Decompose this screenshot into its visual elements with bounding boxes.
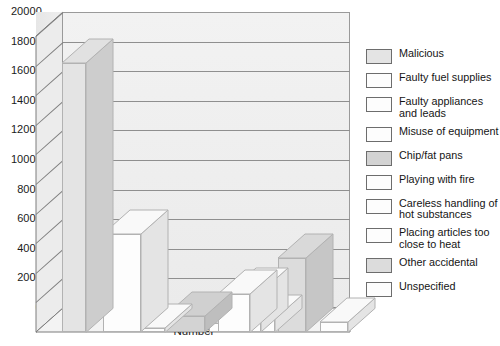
legend-swatch [366, 228, 392, 243]
legend-item[interactable]: Playing with fire [366, 174, 500, 192]
legend-item[interactable]: Chip/fat pans [366, 150, 500, 168]
legend-item[interactable]: Other accidental [366, 257, 500, 275]
legend-item[interactable]: Placing articles too close to heat [366, 227, 500, 251]
legend-swatch [366, 282, 392, 297]
legend-label: Unspecified [399, 281, 455, 293]
legend-item[interactable]: Malicious [366, 48, 500, 66]
legend-item[interactable]: Faulty appliances and leads [366, 96, 500, 120]
legend-label: Faulty appliances and leads [399, 96, 483, 120]
legend-label: Faulty fuel supplies [399, 72, 491, 84]
legend-label: Other accidental [399, 257, 478, 269]
bar-side-face [86, 39, 115, 334]
bar [62, 63, 86, 332]
bar-chart: 0200040006000800010000120001400016000180… [0, 0, 500, 346]
legend-swatch [366, 258, 392, 273]
legend-label: Playing with fire [399, 174, 475, 186]
legend-swatch [366, 127, 392, 142]
legend-label: Placing articles too close to heat [399, 227, 490, 251]
legend-item[interactable]: Misuse of equipment [366, 126, 500, 144]
legend-swatch [366, 97, 392, 112]
legend-label: Misuse of equipment [399, 126, 499, 138]
legend-swatch [366, 49, 392, 64]
chart-legend: MaliciousFaulty fuel suppliesFaulty appl… [366, 48, 500, 305]
legend-swatch [366, 199, 392, 214]
legend-label: Chip/fat pans [399, 150, 463, 162]
legend-swatch [366, 175, 392, 190]
legend-swatch [366, 151, 392, 166]
bar-top-face [278, 234, 335, 260]
legend-item[interactable]: Unspecified [366, 281, 500, 299]
legend-label: Careless handling of hot substances [399, 198, 497, 222]
legend-swatch [366, 73, 392, 88]
legend-label: Malicious [399, 48, 444, 60]
plot-area [36, 12, 352, 328]
legend-item[interactable]: Careless handling of hot substances [366, 198, 500, 222]
legend-item[interactable]: Faulty fuel supplies [366, 72, 500, 90]
bar-top-face [62, 39, 115, 65]
bar-front-face [62, 63, 86, 332]
